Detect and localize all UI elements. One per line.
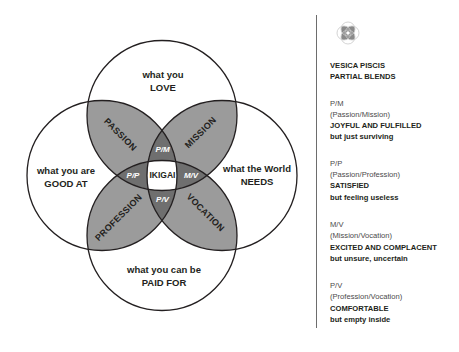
ikigai-venn-diagram: what you LOVE what you are GOOD AT what … [0,0,310,352]
blend-item: M/V (Mission/Vocation) EXCITED AND COMPL… [330,219,458,264]
label-pv: P/V [156,195,170,204]
side-panel: VESICA PISCIS PARTIAL BLENDS P/M (Passio… [330,60,458,325]
label-paid-for-line1: what you can be [126,264,201,275]
blend-but: but just surviving [330,131,458,142]
side-heading-line2: PARTIAL BLENDS [330,71,458,82]
blend-pair: (Mission/Vocation) [330,230,458,241]
blend-state: JOYFUL AND FULFILLED [330,120,458,131]
label-love-line2: LOVE [150,82,176,93]
label-good-at-line2: GOOD AT [44,178,87,189]
blend-pair: (Profession/Vocation) [330,291,458,302]
blend-item: P/V (Profession/Vocation) COMFORTABLE bu… [330,280,458,325]
blend-pair: (Passion/Profession) [330,169,458,180]
blend-state: SATISFIED [330,180,458,191]
label-paid-for-line2: PAID FOR [142,277,187,288]
blend-state: COMFORTABLE [330,303,458,314]
blend-but: but feeling useless [330,192,458,203]
blend-state: EXCITED AND COMPLACENT [330,242,458,253]
blend-pair: (Passion/Mission) [330,109,458,120]
side-heading-line1: VESICA PISCIS [330,60,458,71]
blend-but: but empty inside [330,314,458,325]
label-mv: M/V [184,171,199,180]
label-pp: P/P [127,171,141,180]
blend-code: P/M [330,98,458,109]
blend-item: P/P (Passion/Profession) SATISFIED but f… [330,158,458,203]
blend-code: P/V [330,280,458,291]
label-good-at-line1: what you are [36,165,95,176]
label-world-needs-line1: what the World [222,163,291,174]
side-divider [316,15,317,328]
label-love-line1: what you [141,69,183,80]
blend-but: but unsure, uncertain [330,253,458,264]
blend-code: P/P [330,158,458,169]
label-ikigai: IKIGAI [150,170,176,180]
label-world-needs-line2: NEEDS [241,176,274,187]
blend-item: P/M (Passion/Mission) JOYFUL AND FULFILL… [330,98,458,143]
blend-code: M/V [330,219,458,230]
vesica-piscis-icon [333,18,363,48]
label-pm: P/M [155,145,170,154]
